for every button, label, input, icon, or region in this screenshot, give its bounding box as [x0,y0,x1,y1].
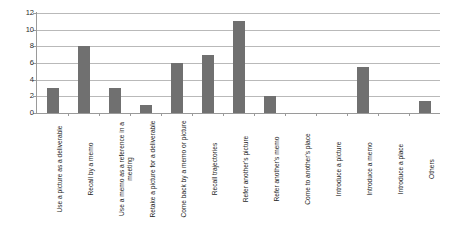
x-axis-category-label: Others [428,115,436,223]
bar [233,21,245,113]
bar [202,55,214,113]
x-axis-category-label: Introduce a picture [335,115,343,223]
y-axis-tick-label: 4 [18,76,34,84]
x-axis-line [37,113,440,114]
y-axis-tick-label: 0 [18,109,34,117]
x-axis-category-label: Recall by a memo [87,115,95,223]
x-axis-category-label: Refer another's memo [273,115,281,223]
bar [47,88,59,113]
bar [264,96,276,113]
x-axis-category-label: Introduce a memo [366,115,374,223]
x-axis-category-labels: Use a picture as a deliverableRecall by … [37,115,440,228]
x-axis-category-label: Refer another's picture [242,115,250,223]
y-axis-tick-label: 12 [18,9,34,17]
bar-chart-figure: 024681012 Use a picture as a deliverable… [0,0,461,228]
bar [140,105,152,113]
bar [78,46,90,113]
bar [357,67,369,113]
y-axis-tick-labels: 024681012 [14,0,34,228]
y-axis-tick-label: 2 [18,92,34,100]
y-axis-tick-label: 10 [18,26,34,34]
bar [171,63,183,113]
y-axis-tick-label: 8 [18,42,34,50]
x-axis-category-label: Recall trajectories [211,115,219,223]
bar [419,101,431,114]
y-axis-tick-label: 6 [18,59,34,67]
x-axis-category-label: Use a picture as a deliverable [56,115,64,223]
bars-group [37,13,440,113]
x-axis-category-label: Use a memo as a reference in a meeting [118,115,133,223]
x-axis-category-label: Come back by a memo or picture [180,115,188,223]
x-axis-category-label: Retake a picture for a deliverable [149,115,157,223]
x-axis-category-label: Come to another's place [304,115,312,223]
bar [109,88,121,113]
x-axis-category-label: Introduce a place [397,115,405,223]
